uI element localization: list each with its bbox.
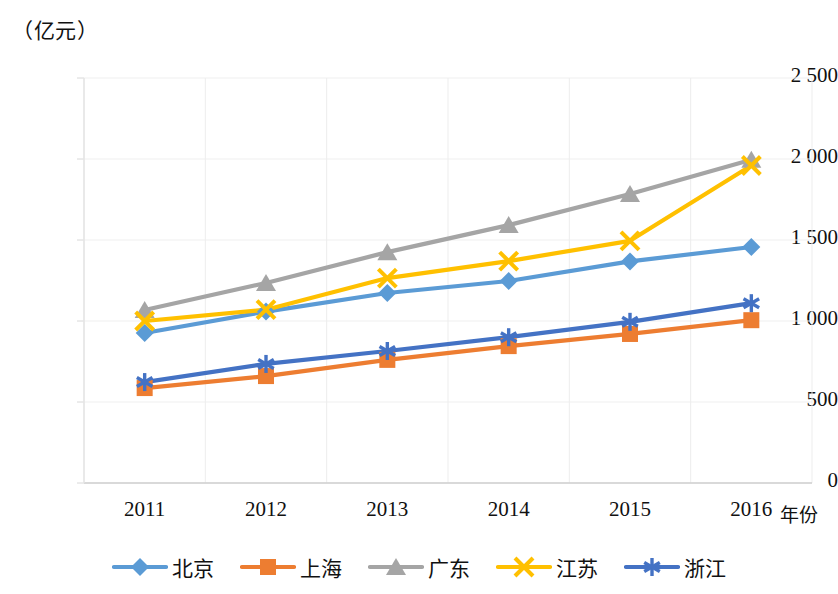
legend-item-北京[interactable]: 北京 [112,552,214,582]
data-point-square [743,312,759,328]
line-chart: （亿元） 年份 05001 0001 5002 0002 500 2011201… [0,0,838,594]
legend-key-square-icon [240,555,296,579]
legend-key-triangle-icon [368,555,424,579]
legend-key-cross-icon [496,555,552,579]
plot-area [0,0,838,594]
data-point-diamond [500,272,518,290]
legend-item-上海[interactable]: 上海 [240,552,342,582]
legend-item-江苏[interactable]: 江苏 [496,552,598,582]
legend-label: 北京 [172,552,214,582]
legend-item-浙江[interactable]: 浙江 [624,552,726,582]
chart-legend: 北京上海广东江苏浙江 [0,552,838,582]
legend-item-广东[interactable]: 广东 [368,552,470,582]
legend-label: 江苏 [556,552,598,582]
legend-label: 浙江 [684,552,726,582]
legend-key-diamond-icon [112,555,168,579]
legend-key-asterisk-icon [624,555,680,579]
data-point-diamond [131,558,149,576]
legend-label: 上海 [300,552,342,582]
legend-label: 广东 [428,552,470,582]
data-point-square [260,559,276,575]
data-point-diamond [621,252,639,270]
data-point-diamond [742,238,760,256]
